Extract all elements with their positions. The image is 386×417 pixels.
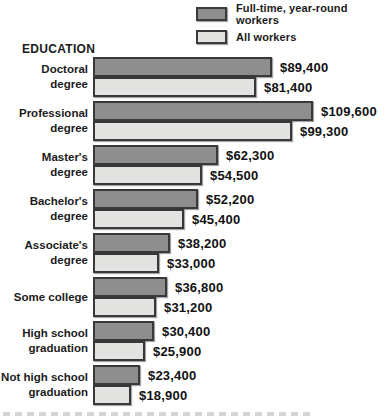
category-label: Associate's degree [0,233,88,273]
category-label: Not high school graduation [0,365,88,405]
bar-line: $33,000 [93,253,226,273]
value-label: $54,500 [210,168,258,183]
earnings-by-education-chart: Full-time, year-round workers All worker… [0,0,386,417]
axis-title-education: EDUCATION [22,42,95,56]
category-row-professional-degree: Professional degree$109,600$99,300 [0,101,377,141]
category-label: Master's degree [0,145,88,185]
bar-line: $62,300 [93,145,274,165]
bar-pair: $38,200$33,000 [93,233,226,273]
bar-line: $99,300 [93,121,377,141]
value-label: $62,300 [226,148,274,163]
bar-line: $18,900 [93,385,196,405]
bar-line: $54,500 [93,165,274,185]
bar-pair: $109,600$99,300 [93,101,377,141]
legend: Full-time, year-round workers All worker… [196,2,386,48]
bar-line: $31,200 [93,297,223,317]
bar-all-workers [93,385,131,405]
category-label: Professional degree [0,101,88,141]
category-row-some-college: Some college$36,800$31,200 [0,277,377,317]
legend-swatch-fulltime-icon [196,7,227,21]
category-label: Doctoral degree [0,57,88,97]
bar-pair: $23,400$18,900 [93,365,196,405]
legend-swatch-all-workers-icon [196,30,227,44]
value-label: $25,900 [153,344,201,359]
bar-rows: Doctoral degree$89,400$81,400Professiona… [0,57,377,409]
bar-pair: $89,400$81,400 [93,57,328,97]
value-label: $31,200 [164,300,212,315]
bar-fulltime [93,321,154,341]
bar-fulltime [93,365,140,385]
value-label: $33,000 [167,256,215,271]
bar-all-workers [93,209,184,229]
value-label: $99,300 [300,124,348,139]
category-label: High school graduation [0,321,88,361]
value-label: $109,600 [321,104,377,119]
bar-line: $81,400 [93,77,328,97]
bar-fulltime [93,57,272,77]
bar-pair: $52,200$45,400 [93,189,254,229]
category-row-associate-s-degree: Associate's degree$38,200$33,000 [0,233,377,273]
category-label: Bachelor's degree [0,189,88,229]
cropped-caption-remnant [3,412,313,416]
bar-line: $89,400 [93,57,328,77]
category-row-high-school-graduation: High school graduation$30,400$25,900 [0,321,377,361]
value-label: $18,900 [139,388,187,403]
value-label: $30,400 [162,324,210,339]
value-label: $23,400 [148,368,196,383]
bar-all-workers [93,253,159,273]
value-label: $45,400 [192,212,240,227]
bar-all-workers [93,341,145,361]
bar-line: $36,800 [93,277,223,297]
legend-item-all-workers: All workers [196,30,386,44]
bar-line: $109,600 [93,101,377,121]
category-label: Some college [0,277,88,317]
bar-fulltime [93,277,167,297]
category-row-not-high-school-graduation: Not high school graduation$23,400$18,900 [0,365,377,405]
category-row-doctoral-degree: Doctoral degree$89,400$81,400 [0,57,377,97]
legend-item-fulltime: Full-time, year-round workers [196,2,386,26]
value-label: $52,200 [206,192,254,207]
category-row-master-s-degree: Master's degree$62,300$54,500 [0,145,377,185]
value-label: $81,400 [264,80,312,95]
bar-line: $52,200 [93,189,254,209]
bar-line: $25,900 [93,341,210,361]
bar-line: $38,200 [93,233,226,253]
value-label: $89,400 [280,60,328,75]
bar-line: $23,400 [93,365,196,385]
bar-fulltime [93,189,198,209]
bar-all-workers [93,165,202,185]
bar-fulltime [93,101,313,121]
bar-pair: $36,800$31,200 [93,277,223,317]
bar-pair: $30,400$25,900 [93,321,210,361]
bar-pair: $62,300$54,500 [93,145,274,185]
legend-label-fulltime: Full-time, year-round workers [236,2,386,26]
value-label: $38,200 [178,236,226,251]
bar-fulltime [93,233,170,253]
category-row-bachelor-s-degree: Bachelor's degree$52,200$45,400 [0,189,377,229]
bar-all-workers [93,121,292,141]
legend-label-all-workers: All workers [236,31,296,43]
bar-all-workers [93,297,156,317]
bar-all-workers [93,77,256,97]
bar-fulltime [93,145,218,165]
bar-line: $30,400 [93,321,210,341]
bar-line: $45,400 [93,209,254,229]
value-label: $36,800 [175,280,223,295]
